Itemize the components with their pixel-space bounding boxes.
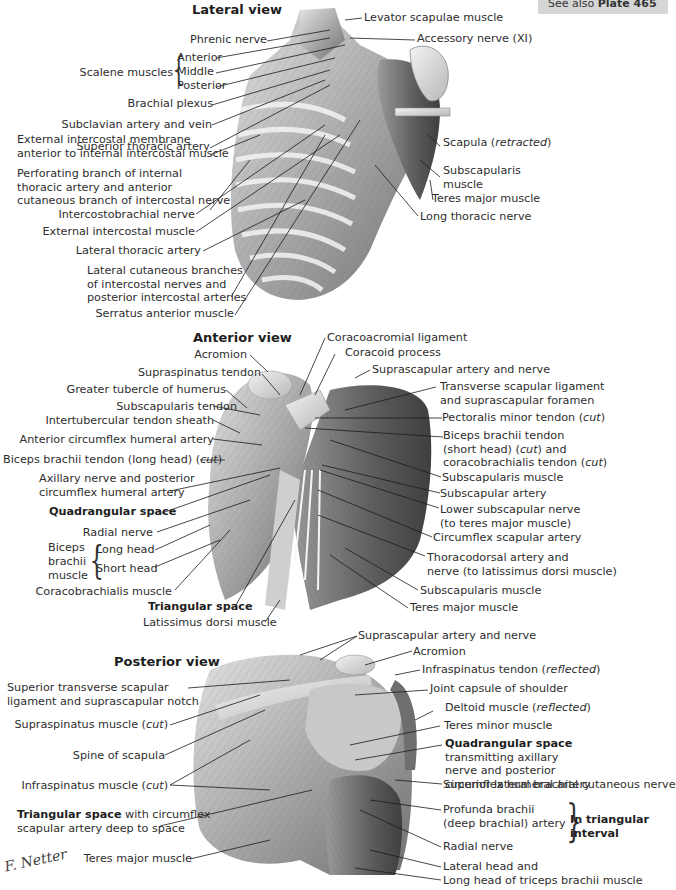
label-radial-nerve-posterior: Radial nerve — [443, 840, 513, 854]
label-suprascapular-anterior: Suprascapular artery and nerve — [372, 363, 550, 377]
label-line: External intercostal membrane — [17, 133, 229, 147]
label-line: transmitting axillary — [445, 751, 591, 765]
label-text: Deltoid muscle — [445, 701, 529, 714]
label-short-head-anterior: Short head — [96, 562, 158, 576]
label-line: nerve and posterior — [445, 764, 591, 778]
label-lower-subscapular-nerve: Lower subscapular nerve (to teres major … — [440, 503, 580, 530]
label-note: retracted — [495, 136, 547, 149]
label-line: thoracic artery and anterior — [17, 181, 230, 195]
label-superior-lateral-brachial-cutaneous: Superior lateral brachial cutaneous nerv… — [443, 778, 676, 792]
label-anterior-circumflex: Anterior circumflex humeral artery — [20, 433, 214, 447]
label-text: Supraspinatus muscle — [15, 718, 139, 731]
label-text: Triangular space — [148, 600, 252, 613]
label-supraspinatus-tendon: Supraspinatus tendon — [138, 366, 261, 380]
label-profunda-brachii: Profunda brachii (deep brachial) artery — [443, 803, 566, 830]
label-long-thoracic: Long thoracic nerve — [420, 210, 531, 224]
label-superior-transverse-scapular: Superior transverse scapular ligament an… — [7, 681, 199, 708]
label-phrenic-nerve: Phrenic nerve — [190, 33, 267, 47]
label-text: Scapula — [443, 136, 487, 149]
label-teres-major-anterior: Teres major muscle — [410, 601, 518, 615]
label-note: cut — [146, 718, 164, 731]
label-spine-of-scapula: Spine of scapula — [73, 749, 165, 763]
label-accessory-nerve: Accessory nerve (XI) — [417, 32, 532, 46]
label-long-head-triceps: Long head of triceps brachii muscle — [443, 874, 643, 888]
label-biceps-long-head-tendon: Biceps brachii tendon (long head) (cut) — [3, 453, 222, 467]
label-text: coracobrachialis tendon — [443, 456, 577, 469]
label-coracobrachialis: Coracobrachialis muscle — [36, 585, 172, 599]
label-line: Biceps — [48, 541, 88, 555]
label-line: anterior to internal intercostal muscle — [17, 147, 229, 161]
label-note: cut — [200, 453, 218, 466]
label-teres-minor: Teres minor muscle — [444, 719, 553, 733]
label-circumflex-scapular: Circumflex scapular artery — [433, 531, 581, 545]
label-perforating-branch: Perforating branch of internal thoracic … — [17, 167, 230, 208]
label-line: coracobrachialis tendon (cut) — [443, 456, 607, 470]
label-line: (short head) (cut) and — [443, 443, 607, 457]
label-line: Thoracodorsal artery and — [427, 551, 617, 565]
label-line: (to teres major muscle) — [440, 517, 580, 531]
label-line: cutaneous branch of intercostal nerve — [17, 194, 230, 208]
label-text: Triangular space — [17, 808, 121, 821]
label-line: muscle — [48, 569, 88, 583]
label-line: Biceps brachii tendon — [443, 429, 607, 443]
label-line: posterior intercostal arteries — [87, 291, 246, 305]
label-infraspinatus-tendon: Infraspinatus tendon (reflected) — [422, 663, 600, 677]
label-transverse-scapular-ligament: Transverse scapular ligament and suprasc… — [440, 380, 605, 407]
posterior-view-drawing — [193, 655, 416, 875]
label-teres-major-posterior: Teres major muscle — [84, 852, 192, 866]
label-note: cut — [585, 456, 603, 469]
label-line: of intercostal nerves and — [87, 278, 246, 292]
label-intercostobrachial: Intercostobrachial nerve — [58, 208, 195, 222]
label-line: muscle — [443, 178, 521, 192]
label-triangular-space-posterior: Triangular space with circumflex scapula… — [17, 808, 210, 835]
plate-reference-prefix: See also — [548, 0, 594, 10]
plate-reference-link[interactable]: Plate 465 — [598, 0, 657, 10]
label-ext-intercostal-membrane: External intercostal membrane anterior t… — [17, 133, 229, 160]
label-serratus-anterior: Serratus anterior muscle — [95, 307, 234, 321]
label-scapula: Scapula (retracted) — [443, 136, 551, 150]
label-line: Subscapularis — [443, 164, 521, 178]
label-text: Pectoralis minor tendon — [442, 411, 575, 424]
label-thoracodorsal: Thoracodorsal artery and nerve (to latis… — [427, 551, 617, 578]
label-text: Infraspinatus tendon — [422, 663, 538, 676]
label-subscapularis-muscle-anterior: Subscapularis muscle — [442, 471, 563, 485]
label-line: nerve (to latissimus dorsi muscle) — [427, 565, 617, 579]
label-line: brachii — [48, 555, 88, 569]
label-scalene-middle: Middle — [177, 65, 214, 79]
label-subscapularis-tendon: Subscapularis tendon — [116, 400, 237, 414]
lateral-view-drawing — [231, 8, 450, 300]
lateral-view-title: Lateral view — [192, 2, 282, 17]
label-deltoid: Deltoid muscle (reflected) — [445, 701, 591, 715]
label-axillary-nerve: Axillary nerve and posterior circumflex … — [39, 472, 195, 499]
label-text: (short head) ( — [443, 443, 520, 456]
label-infraspinatus-muscle: Infraspinatus muscle (cut) — [21, 779, 168, 793]
label-line: Perforating branch of internal — [17, 167, 230, 181]
label-biceps-short-head-tendon: Biceps brachii tendon (short head) (cut)… — [443, 429, 607, 470]
label-text: Quadrangular space — [49, 505, 176, 518]
label-line: Lower subscapular nerve — [440, 503, 580, 517]
label-greater-tubercle: Greater tubercle of humerus — [66, 383, 226, 397]
label-joint-capsule: Joint capsule of shoulder — [430, 682, 568, 696]
label-subscapularis-lateral: Subscapularis muscle — [443, 164, 521, 191]
label-acromion-anterior: Acromion — [194, 348, 247, 362]
label-scalene-posterior: Posterior — [177, 79, 226, 93]
plate-reference[interactable]: See also Plate 465 — [538, 0, 668, 14]
label-lateral-cutaneous: Lateral cutaneous branches of intercosta… — [87, 264, 246, 305]
label-levator-scapulae: Levator scapulae muscle — [364, 11, 503, 25]
label-external-intercostal: External intercostal muscle — [43, 225, 195, 239]
label-brachial-plexus: Brachial plexus — [128, 97, 213, 111]
label-line: Lateral cutaneous branches — [87, 264, 246, 278]
label-pectoralis-minor: Pectoralis minor tendon (cut) — [442, 411, 605, 425]
label-teres-major-lateral: Teres major muscle — [432, 192, 540, 206]
label-suprascapular-posterior: Suprascapular artery and nerve — [358, 629, 536, 643]
label-coracoacromial: Coracoacromial ligament — [327, 331, 467, 345]
label-line: Axillary nerve and posterior — [39, 472, 195, 486]
label-long-head-anterior: Long head — [96, 543, 155, 557]
label-text: with circumflex — [125, 808, 210, 821]
label-text: Infraspinatus muscle — [21, 779, 138, 792]
label-lateral-thoracic: Lateral thoracic artery — [76, 244, 201, 258]
label-text: Quadrangular space — [445, 737, 572, 750]
label-line: ligament and suprascapular notch — [7, 695, 199, 709]
label-quadrangular-space-anterior: Quadrangular space — [49, 505, 176, 519]
label-coracoid: Coracoid process — [345, 346, 441, 360]
